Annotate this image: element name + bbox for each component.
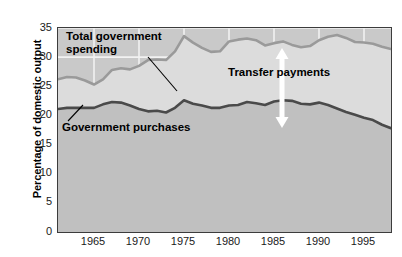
x-tick-1980: 1980 — [216, 235, 240, 247]
y-tick-30: 30 — [24, 51, 52, 62]
x-tick-1985: 1985 — [261, 235, 285, 247]
y-tick-15: 15 — [24, 138, 52, 149]
annotation-total-government-spending: Total government spending — [66, 30, 162, 55]
y-tick-35: 35 — [24, 22, 52, 33]
x-tick-1995: 1995 — [351, 235, 375, 247]
annotation-transfer-payments: Transfer payments — [228, 66, 330, 79]
y-axis-tick-labels: 05101520253035 — [24, 0, 52, 257]
x-tick-1970: 1970 — [126, 235, 150, 247]
x-tick-1965: 1965 — [81, 235, 105, 247]
annotation-government-purchases: Government purchases — [62, 121, 190, 134]
y-tick-5: 5 — [24, 196, 52, 207]
x-tick-1990: 1990 — [306, 235, 330, 247]
y-tick-10: 10 — [24, 167, 52, 178]
y-tick-20: 20 — [24, 109, 52, 120]
y-tick-0: 0 — [24, 226, 52, 237]
chart-figure: Percentage of domestic output 0510152025… — [0, 0, 402, 257]
x-tick-1975: 1975 — [171, 235, 195, 247]
y-tick-25: 25 — [24, 80, 52, 91]
